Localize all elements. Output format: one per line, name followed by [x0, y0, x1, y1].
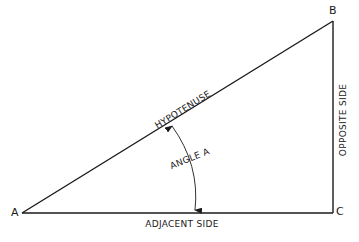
vertex-b-label: B	[329, 5, 337, 16]
opposite-side-label: OPPOSITE SIDE	[339, 84, 348, 156]
triangle-diagram: A B C HYPOTENUSE OPPOSITE SIDE ADJACENT …	[0, 0, 359, 242]
vertex-a-label: A	[11, 207, 19, 218]
triangle-drawing	[0, 0, 359, 242]
vertex-c-label: C	[336, 206, 344, 217]
adjacent-side-label: ADJACENT SIDE	[145, 220, 219, 229]
